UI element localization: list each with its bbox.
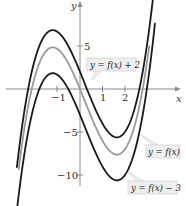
x-tick-label: 2	[122, 92, 128, 103]
x-axis-label: x	[176, 93, 182, 104]
y-tick-label: 5	[84, 41, 90, 52]
callout-pointer	[141, 135, 158, 145]
x-tick-label: −1	[51, 92, 66, 103]
callout-pointer	[128, 172, 143, 181]
x-tick-label: 1	[100, 92, 106, 103]
function-graph: x y −1 1 2 5 −5 −10 y = f(x) + 2 y = f(x…	[0, 0, 186, 206]
callout-f-minus-3: y = f(x) − 3	[128, 172, 181, 194]
callout-f-plus-2: y = f(x) + 2	[87, 58, 140, 80]
callout-pointer	[92, 70, 103, 80]
callout-label: y = f(x) + 2	[89, 60, 140, 70]
curve-f-plus-2	[17, 0, 154, 167]
y-ticks: 5 −5 −10	[57, 41, 90, 181]
y-tick-label: −10	[57, 170, 78, 181]
callout-f: y = f(x)	[141, 135, 180, 158]
y-axis-label: y	[70, 0, 77, 11]
curves	[17, 0, 155, 206]
y-tick-label: −5	[63, 127, 78, 138]
callout-label: y = f(x)	[147, 147, 180, 157]
y-axis-arrow-icon	[78, 1, 83, 7]
x-axis-arrow-icon	[175, 87, 181, 92]
callout-label: y = f(x) − 3	[130, 183, 181, 193]
